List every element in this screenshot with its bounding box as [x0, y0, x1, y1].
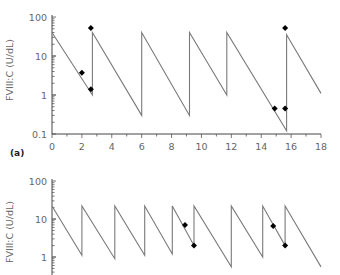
measured-point-marker — [191, 243, 197, 249]
measured-point-marker — [282, 243, 288, 249]
fviii-curve — [52, 33, 321, 131]
measured-point-marker — [272, 106, 278, 112]
y-tick-label: 0.1 — [32, 129, 47, 140]
y-axis-title: FVIII:C (U/dL) — [4, 201, 15, 263]
panel-label: (a) — [10, 148, 24, 158]
x-tick-label: 16 — [285, 141, 297, 152]
measured-point-marker — [282, 106, 288, 112]
chart-panel-b: 110100FVIII:C (U/dL) — [4, 176, 321, 275]
measured-point-marker — [282, 25, 288, 31]
fviii-curve — [52, 206, 321, 267]
x-tick-label: 18 — [315, 141, 327, 152]
x-tick-label: 0 — [49, 141, 55, 152]
x-tick-label: 10 — [195, 141, 207, 152]
y-axis-title: FVIII:C (U/dL) — [4, 39, 15, 101]
x-tick-label: 6 — [139, 141, 145, 152]
y-tick-label: 100 — [29, 12, 47, 23]
figure: 0.1110100FVIII:C (U/dL)024681012141618(a… — [0, 0, 340, 275]
measured-point-marker — [182, 222, 188, 228]
x-tick-label: 14 — [255, 141, 267, 152]
y-tick-label: 1 — [41, 90, 47, 101]
x-tick-label: 8 — [169, 141, 175, 152]
x-tick-label: 12 — [225, 141, 237, 152]
y-tick-label: 1 — [41, 252, 47, 263]
measured-point-marker — [88, 25, 94, 31]
y-tick-label: 100 — [29, 176, 47, 187]
x-tick-label: 4 — [109, 141, 115, 152]
y-tick-label: 10 — [35, 51, 47, 62]
x-tick-label: 2 — [79, 141, 85, 152]
chart-panel-a: 0.1110100FVIII:C (U/dL)024681012141618(a… — [4, 12, 327, 159]
measured-point-marker — [88, 86, 94, 92]
y-tick-label: 10 — [35, 214, 47, 225]
